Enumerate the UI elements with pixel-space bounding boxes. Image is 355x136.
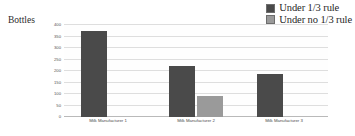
legend-label-under-1-3-rule: Under 1/3 rule (279, 3, 339, 14)
bar-group-bars (240, 25, 328, 117)
x-axis-category-label: Milk Manufacturer 1 (64, 118, 152, 123)
y-axis-tick-label: 100 (54, 91, 61, 96)
y-axis-tick-label: 0 (59, 114, 61, 119)
bar (257, 74, 283, 117)
y-axis-tick-label: 250 (54, 56, 61, 61)
plot-area: 050100150200250300350400 (64, 25, 328, 117)
y-axis-tick-label: 400 (54, 22, 61, 27)
y-axis-title: Bottles (8, 15, 35, 25)
bar-group-bars (152, 25, 240, 117)
legend-swatch-under-no-1-3-rule (266, 15, 275, 24)
chart-legend: Under 1/3 rule Under no 1/3 rule (266, 3, 352, 25)
bar-groups (64, 25, 328, 117)
x-axis-category-label: Milk Manufacturer 3 (240, 118, 328, 123)
bar-group-bars (64, 25, 152, 117)
y-axis-tick-label: 50 (56, 102, 61, 107)
bar-group (152, 25, 240, 117)
y-axis-tick-label: 150 (54, 79, 61, 84)
y-axis-tick-label: 350 (54, 33, 61, 38)
x-axis-category-labels: Milk Manufacturer 1Milk Manufacturer 2Mi… (64, 118, 328, 123)
y-axis-tick-label: 300 (54, 45, 61, 50)
bar-chart: Bottles Under 1/3 rule Under no 1/3 rule… (0, 0, 355, 136)
legend-item-under-1-3-rule: Under 1/3 rule (266, 3, 352, 14)
bar (169, 66, 195, 117)
bar (197, 96, 223, 117)
bar-group (64, 25, 152, 117)
x-axis-category-label: Milk Manufacturer 2 (152, 118, 240, 123)
y-axis-tick-label: 200 (54, 68, 61, 73)
bar-group (240, 25, 328, 117)
legend-swatch-under-1-3-rule (266, 4, 275, 13)
plot-area-wrapper: 050100150200250300350400 (64, 25, 328, 117)
bar (81, 31, 107, 117)
